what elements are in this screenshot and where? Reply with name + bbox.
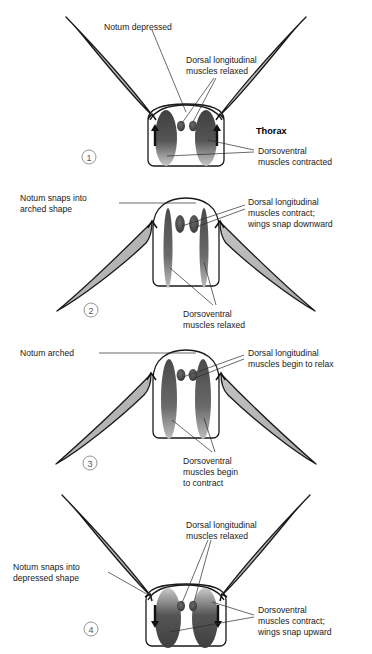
panel-1-dorsoventral-muscle-right — [195, 110, 217, 166]
panel-3-dv-label-line3: to contract — [183, 478, 224, 488]
panel-3-dl-label-line2: muscles begin to relax — [248, 359, 334, 369]
panel-3-number: 3 — [87, 459, 92, 469]
panel-4-dl-label-line1: Dorsal longitudinal — [186, 520, 257, 530]
panel-2-thorax-body — [153, 198, 219, 286]
panel-2-dv-label-line2: muscles relaxed — [183, 320, 245, 330]
panel-3-dv-label-line1: Dorsoventral — [183, 456, 232, 466]
panel-4-dorsoventral-muscle-left — [155, 588, 181, 648]
panel-1-dv-label-line1: Dorsoventral — [258, 146, 307, 156]
panel-4-dv-label-line3: wings snap upward — [257, 627, 332, 637]
panel-3-dl-label-line1: Dorsal longitudinal — [248, 348, 319, 358]
panel-1-dl-label-line1: Dorsal longitudinal — [186, 55, 257, 65]
figure-canvas: Notum depressed Dorsal longitudinal musc… — [0, 0, 372, 654]
panel-3-dorsal-longitudinal-muscle-left — [177, 369, 186, 381]
panel-4-number: 4 — [88, 625, 93, 635]
panel-4-notum-label-line1: Notum snaps into — [13, 562, 80, 572]
panel-1-dl-label-line2: muscles relaxed — [186, 66, 248, 76]
panel-4-dorsoventral-muscle-right — [192, 588, 218, 648]
panel-1-dorsoventral-muscle-left — [155, 110, 177, 166]
panel-1-thorax-label: Thorax — [256, 126, 288, 136]
panel-2-dv-label-line1: Dorsoventral — [183, 309, 232, 319]
panel-4-dv-label-line1: Dorsoventral — [258, 605, 307, 615]
panel-2-dl-label-line2: muscles contract; — [248, 208, 315, 218]
panel-2-notum-label-line1: Notum snaps into — [20, 193, 87, 203]
panel-3-dorsal-longitudinal-muscle-right — [189, 369, 198, 381]
panel-1-dv-label-line2: muscles contracted — [258, 157, 332, 167]
panel-1-dorsal-longitudinal-muscle-left — [177, 121, 185, 131]
panel-3-dorsoventral-muscle-left — [161, 359, 177, 439]
insect-flight-mechanism-figure: Notum depressed Dorsal longitudinal musc… — [0, 0, 372, 654]
panel-3-dv-label-line2: muscles begin — [183, 467, 238, 477]
panel-2-dl-label-line1: Dorsal longitudinal — [248, 197, 319, 207]
panel-4-notum-label-line2: depressed shape — [13, 573, 79, 583]
panel-1-notum-label: Notum depressed — [104, 22, 172, 32]
panel-4-dorsal-longitudinal-muscle-left — [177, 601, 185, 611]
panel-4-dorsal-longitudinal-muscle-right — [189, 601, 197, 611]
panel-1-dorsal-longitudinal-muscle-right — [189, 121, 197, 131]
panel-4-dl-label-line2: muscles relaxed — [186, 531, 248, 541]
panel-3-dorsoventral-muscle-right — [195, 359, 211, 439]
panel-2-dl-label-line3: wings snap downward — [247, 219, 333, 229]
panel-2-number: 2 — [88, 306, 93, 316]
panel-4-dv-label-line2: muscles contract; — [258, 616, 325, 626]
panel-2-dorsoventral-muscle-left — [164, 208, 173, 288]
panel-2-dorsal-longitudinal-muscle-left — [175, 215, 185, 233]
panel-3-notum-label: Notum arched — [20, 348, 74, 358]
panel-1-number: 1 — [86, 153, 91, 163]
panel-2-dorsal-longitudinal-muscle-right — [189, 215, 199, 233]
panel-2-notum-label-line2: arched shape — [20, 204, 72, 214]
